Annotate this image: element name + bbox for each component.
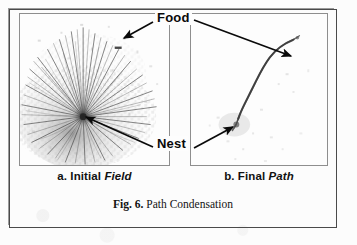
panel-caption-final-path: b. Final Path (190, 170, 328, 182)
figure-number: Fig. 6. (113, 198, 143, 210)
panel-caption-initial-field: a. Initial Field (19, 170, 170, 182)
caption-field-emphasis: Field (104, 170, 131, 182)
caption-path-emphasis: Path (269, 170, 294, 182)
initial-field-food-site (115, 47, 122, 49)
field-pheromone-cloud (20, 34, 156, 165)
label-nest: Nest (155, 136, 188, 151)
final-path-nest-end (233, 122, 239, 128)
figure-caption-text: Path Condensation (143, 198, 232, 210)
label-food: Food (155, 10, 192, 25)
figure-caption: Fig. 6. Path Condensation (9, 198, 337, 210)
panel-initial-field (19, 13, 170, 166)
figure-path-condensation: a. Initial Field b. Final Path Fig. 6. P… (0, 0, 357, 245)
panel-final-path (190, 13, 328, 166)
final-path-plot (191, 14, 327, 165)
caption-path-prefix: b. Final (224, 170, 268, 182)
final-path-food-end (296, 36, 300, 40)
initial-field-plot (20, 14, 169, 165)
caption-field-prefix: a. Initial (57, 170, 104, 182)
